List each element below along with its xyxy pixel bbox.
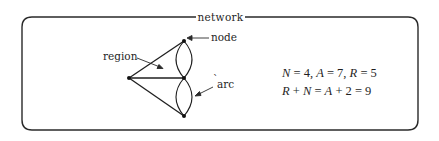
value-a: 7 <box>337 66 343 80</box>
equation-counts: N = 4, A = 7, R = 5 <box>282 66 377 81</box>
node-label: node <box>211 31 237 43</box>
arc-label-tick: ` <box>213 73 218 85</box>
equation-euler: R + N = A + 2 = 9 <box>282 84 371 99</box>
node-left <box>127 76 131 80</box>
node-middle <box>182 76 186 80</box>
value-sum: 9 <box>365 84 371 98</box>
arc-label: arc <box>217 78 234 90</box>
figure-title: network <box>198 11 244 23</box>
arc-top-middle-right <box>184 41 192 78</box>
arc-arrowhead-icon <box>195 92 201 97</box>
arc-arrow-icon <box>199 87 213 94</box>
value-r: 5 <box>371 66 377 80</box>
node-top <box>182 39 186 43</box>
annotation-arrows <box>137 36 213 97</box>
arc-middle-bottom-right <box>184 78 192 116</box>
arc-top-middle-left <box>176 41 184 78</box>
arc-middle-bottom-left <box>176 78 184 116</box>
node-bottom <box>182 114 186 118</box>
region-label: region <box>103 50 138 62</box>
region-arrowhead-icon <box>157 65 163 69</box>
node-arrowhead-icon <box>187 36 192 41</box>
value-n: 4 <box>304 66 310 80</box>
